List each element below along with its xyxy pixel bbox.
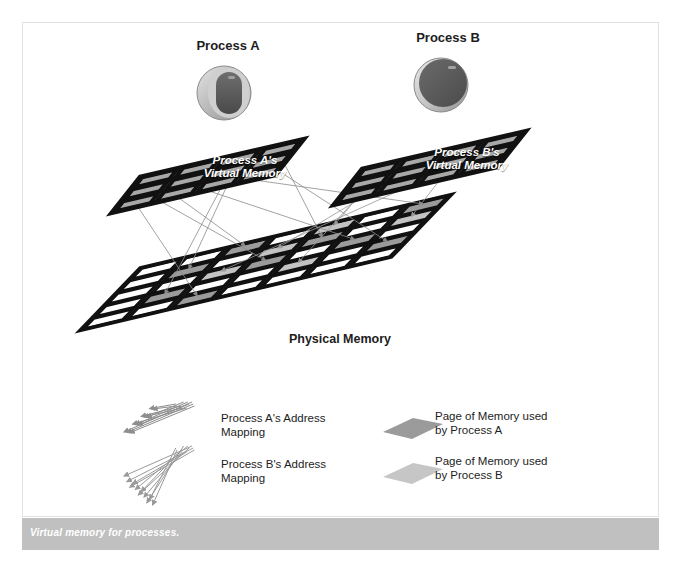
legend-label-page-b-line1: Page of Memory used	[435, 455, 548, 467]
figure-content-box	[22, 22, 659, 517]
legend-label-page-b: Page of Memory used by Process B	[435, 454, 595, 482]
process-b-vm-label: Process B's Virtual Memory	[382, 146, 552, 172]
legend-label-mapping-a-line1: Process A's Address	[221, 412, 325, 424]
caption-text: Virtual memory for processes.	[30, 527, 179, 538]
legend-label-mapping-b: Process B's Address Mapping	[221, 457, 371, 485]
process-a-vm-label: Process A's Virtual Memory	[160, 154, 330, 180]
legend-label-page-a-line2: by Process A	[435, 423, 595, 437]
legend-label-page-b-line2: by Process B	[435, 468, 595, 482]
legend-label-page-a-line1: Page of Memory used	[435, 410, 548, 422]
legend-label-mapping-a: Process A's Address Mapping	[221, 411, 371, 439]
legend-label-mapping-a-line2: Mapping	[221, 425, 371, 439]
process-b-title: Process B	[398, 30, 498, 45]
process-a-vm-label-line2: Virtual Memory	[204, 167, 287, 179]
process-a-vm-label-line1: Process A's	[213, 154, 278, 166]
process-b-vm-label-line2: Virtual Memory	[426, 159, 509, 171]
legend-label-mapping-b-line1: Process B's Address	[221, 458, 326, 470]
process-b-vm-label-line1: Process B's	[434, 146, 499, 158]
legend-label-page-a: Page of Memory used by Process A	[435, 409, 595, 437]
legend-label-mapping-b-line2: Mapping	[221, 471, 371, 485]
physical-memory-title: Physical Memory	[230, 332, 450, 346]
virtual-memory-figure: Process A Process B Process A's Virtual …	[0, 0, 679, 569]
process-a-title: Process A	[178, 38, 278, 53]
